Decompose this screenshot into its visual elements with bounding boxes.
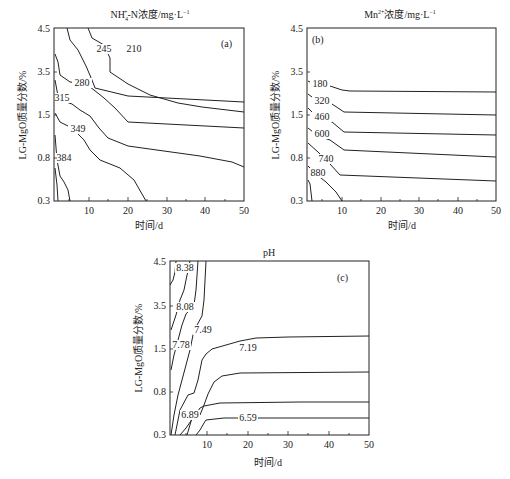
- svg-text:40: 40: [453, 205, 463, 216]
- svg-text:20: 20: [376, 205, 386, 216]
- svg-text:6.59: 6.59: [239, 412, 257, 423]
- panel-a: NH4+-N浓度/mg·L−1 245 210 280 315 349 384 …: [16, 8, 249, 231]
- svg-text:0.3: 0.3: [154, 429, 167, 440]
- svg-text:10: 10: [84, 205, 94, 216]
- svg-text:210: 210: [127, 43, 142, 54]
- panel-c-contours: [170, 261, 369, 435]
- svg-text:0.8: 0.8: [38, 152, 51, 163]
- svg-text:10: 10: [202, 439, 212, 450]
- svg-text:7.19: 7.19: [239, 342, 257, 353]
- panel-b-y-axis: 0.3 0.8 1.5 3.5 4.5 LG-MgO质量分数/%: [269, 23, 310, 206]
- svg-text:4.5: 4.5: [38, 23, 51, 34]
- panel-a-plot-area: [54, 28, 244, 201]
- panel-c-title: pH: [263, 247, 275, 258]
- svg-text:3.5: 3.5: [38, 66, 51, 77]
- panel-b: Mn2+浓度/mg·L−1 180 320 460 600 740 880 (b…: [269, 8, 501, 231]
- svg-text:10: 10: [337, 205, 347, 216]
- svg-text:20: 20: [123, 205, 133, 216]
- svg-text:40: 40: [200, 205, 210, 216]
- svg-text:384: 384: [57, 152, 72, 163]
- panel-a-contours: [55, 28, 244, 201]
- panel-b-title: Mn2+浓度/mg·L−1: [364, 8, 436, 20]
- svg-text:460: 460: [315, 111, 330, 122]
- svg-text:180: 180: [313, 78, 328, 89]
- svg-text:0.3: 0.3: [291, 195, 304, 206]
- svg-text:740: 740: [319, 153, 334, 164]
- svg-text:315: 315: [55, 92, 70, 103]
- panel-a-label: (a): [221, 38, 232, 50]
- svg-text:20: 20: [243, 439, 253, 450]
- svg-text:349: 349: [71, 123, 86, 134]
- panel-b-label: (b): [312, 34, 324, 46]
- svg-text:245: 245: [97, 43, 112, 54]
- panel-a-title: NH4+-N浓度/mg·L−1: [111, 8, 190, 22]
- svg-text:320: 320: [315, 95, 330, 106]
- svg-text:0.3: 0.3: [38, 195, 51, 206]
- svg-text:0.8: 0.8: [154, 386, 167, 397]
- svg-text:1.5: 1.5: [38, 109, 51, 120]
- panel-c-label: (c): [337, 272, 348, 284]
- svg-text:600: 600: [315, 128, 330, 139]
- svg-text:30: 30: [162, 205, 172, 216]
- panel-b-ylabel: LG-MgO质量分数/%: [269, 71, 281, 160]
- svg-text:7.78: 7.78: [172, 339, 190, 350]
- panel-c-y-axis: 0.3 0.8 1.5 3.5 4.5 LG-MgO质量分数/%: [132, 256, 173, 440]
- svg-text:7.49: 7.49: [194, 324, 212, 335]
- panel-c-contour-labels: 8.38 8.08 7.49 7.78 7.19 6.89 6.59: [171, 262, 258, 423]
- svg-text:50: 50: [364, 439, 374, 450]
- panel-c: pH 8.38 8.08 7.49 7.78 7.19 6.89 6.5: [132, 247, 374, 468]
- panel-a-x-axis: 10 20 30 40 50 时间/d: [69, 197, 249, 231]
- svg-text:3.5: 3.5: [154, 300, 167, 311]
- panel-c-xlabel: 时间/d: [254, 456, 282, 468]
- svg-text:3.5: 3.5: [291, 66, 304, 77]
- svg-text:8.08: 8.08: [176, 301, 194, 312]
- svg-text:1.5: 1.5: [154, 343, 167, 354]
- figure: NH4+-N浓度/mg·L−1 245 210 280 315 349 384 …: [0, 0, 510, 479]
- panel-b-contour-labels: 180 320 460 600 740 880: [308, 78, 336, 178]
- svg-text:30: 30: [414, 205, 424, 216]
- svg-text:1.5: 1.5: [291, 109, 304, 120]
- panel-c-ylabel: LG-MgO质量分数/%: [132, 304, 144, 393]
- svg-text:4.5: 4.5: [154, 256, 167, 267]
- panel-a-contour-labels: 245 210 280 315 349 384: [52, 43, 144, 163]
- svg-text:4.5: 4.5: [291, 23, 304, 34]
- panel-a-ylabel: LG-MgO质量分数/%: [16, 71, 28, 160]
- svg-text:0.8: 0.8: [291, 152, 304, 163]
- svg-text:30: 30: [283, 439, 293, 450]
- panel-b-x-axis: 10 20 30 40 50 时间/d: [322, 197, 501, 231]
- svg-text:6.89: 6.89: [181, 409, 199, 420]
- svg-text:8.38: 8.38: [176, 262, 194, 273]
- panel-c-x-axis: 10 20 30 40 50 时间/d: [186, 431, 374, 468]
- svg-text:280: 280: [75, 77, 90, 88]
- panel-b-contours: [308, 81, 496, 201]
- panel-a-y-axis: 0.3 0.8 1.5 3.5 4.5 LG-MgO质量分数/%: [16, 23, 57, 206]
- panel-b-xlabel: 时间/d: [388, 219, 416, 231]
- svg-text:40: 40: [324, 439, 334, 450]
- panel-a-xlabel: 时间/d: [135, 219, 163, 231]
- svg-text:880: 880: [311, 167, 326, 178]
- svg-text:50: 50: [239, 205, 249, 216]
- svg-text:50: 50: [491, 205, 501, 216]
